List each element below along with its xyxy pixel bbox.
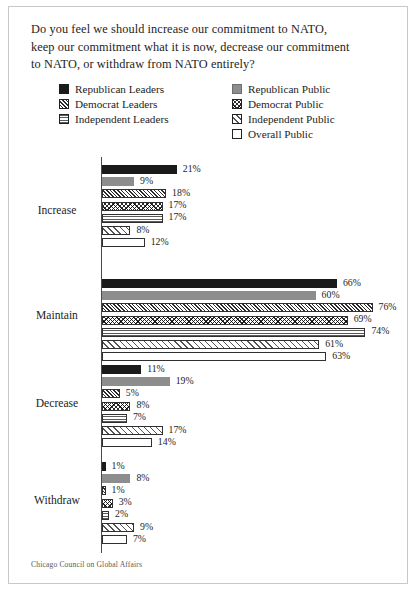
bar-value-label: 76% <box>379 301 397 312</box>
bar-increase-independent-public <box>102 226 130 235</box>
bar-value-label: 17% <box>169 424 187 435</box>
bar-row: 61% <box>102 340 379 349</box>
bar-value-label: 5% <box>126 387 139 398</box>
bar-row: 8% <box>102 402 190 411</box>
bar-row: 8% <box>102 474 190 483</box>
bar-row: 14% <box>102 438 212 447</box>
bar-value-label: 60% <box>322 289 340 300</box>
bar-value-label: 61% <box>325 338 343 349</box>
chart-figure: Do you feel we should increase our commi… <box>8 6 408 584</box>
bar-value-label: 21% <box>183 163 201 174</box>
bar-decrease-republican-public <box>102 377 170 386</box>
bar-increase-republican-leaders <box>102 165 177 174</box>
bar-row: 17% <box>102 426 223 435</box>
bar-maintain-independent-leaders <box>102 328 365 337</box>
category-label-decrease: Decrease <box>17 397 97 410</box>
bar-row: 66% <box>102 279 397 288</box>
bar-decrease-independent-public <box>102 426 163 435</box>
bar-value-label: 8% <box>136 472 149 483</box>
category-label-withdraw: Withdraw <box>17 494 97 507</box>
bar-increase-democrat-leaders <box>102 189 166 198</box>
bar-value-label: 9% <box>140 175 153 186</box>
bar-value-label: 17% <box>169 211 187 222</box>
bar-value-label: 18% <box>172 187 190 198</box>
bar-row: 8% <box>102 226 190 235</box>
bar-value-label: 19% <box>176 375 194 386</box>
bar-row: 1% <box>102 486 166 495</box>
bar-row: 17% <box>102 202 223 211</box>
bar-value-label: 2% <box>115 508 128 519</box>
bar-value-label: 17% <box>169 199 187 210</box>
bar-increase-independent-leaders <box>102 214 163 223</box>
bar-value-label: 7% <box>133 411 146 422</box>
bar-withdraw-independent-public <box>102 523 134 532</box>
bar-row: 76% <box>102 303 417 312</box>
bar-row: 1% <box>102 462 166 471</box>
bar-row: 17% <box>102 214 223 223</box>
bar-value-label: 74% <box>371 325 389 336</box>
bar-withdraw-independent-leaders <box>102 511 109 520</box>
bar-value-label: 8% <box>136 399 149 410</box>
bar-increase-republican-public <box>102 177 134 186</box>
bar-decrease-republican-leaders <box>102 365 141 374</box>
bar-value-label: 66% <box>343 277 361 288</box>
bar-value-label: 14% <box>158 436 176 447</box>
category-label-increase: Increase <box>17 204 97 217</box>
bar-value-label: 12% <box>151 236 169 247</box>
bar-row: 19% <box>102 377 230 386</box>
bar-decrease-democrat-public <box>102 402 130 411</box>
bar-value-label: 11% <box>147 363 165 374</box>
bar-maintain-republican-public <box>102 291 316 300</box>
bar-row: 69% <box>102 316 408 325</box>
bar-maintain-republican-leaders <box>102 279 337 288</box>
bar-value-label: 1% <box>112 460 125 471</box>
bar-decrease-independent-leaders <box>102 414 127 423</box>
bar-withdraw-democrat-leaders <box>102 486 106 495</box>
bar-maintain-overall-public <box>102 352 326 361</box>
bar-maintain-independent-public <box>102 340 319 349</box>
bar-row: 74% <box>102 328 417 337</box>
bar-row: 21% <box>102 165 237 174</box>
bar-increase-overall-public <box>102 238 145 247</box>
bar-maintain-democrat-public <box>102 316 348 325</box>
bar-value-label: 63% <box>332 350 350 361</box>
bar-withdraw-overall-public <box>102 535 127 544</box>
source-note: Chicago Council on Global Affairs <box>31 560 142 569</box>
bar-maintain-democrat-leaders <box>102 303 373 312</box>
bar-row: 7% <box>102 535 187 544</box>
bar-row: 2% <box>102 511 169 520</box>
bar-withdraw-republican-leaders <box>102 462 106 471</box>
bar-row: 11% <box>102 365 201 374</box>
bar-increase-democrat-public <box>102 202 163 211</box>
bar-value-label: 9% <box>140 521 153 532</box>
category-label-maintain: Maintain <box>17 309 97 322</box>
bar-row: 12% <box>102 238 205 247</box>
bar-decrease-overall-public <box>102 438 152 447</box>
bar-row: 9% <box>102 523 194 532</box>
bar-value-label: 69% <box>354 313 372 324</box>
bar-value-label: 7% <box>133 533 146 544</box>
bar-row: 5% <box>102 389 180 398</box>
bar-withdraw-democrat-public <box>102 499 113 508</box>
bar-row: 9% <box>102 177 194 186</box>
bar-row: 3% <box>102 499 173 508</box>
bar-value-label: 1% <box>112 484 125 495</box>
bar-row: 60% <box>102 291 376 300</box>
bar-row: 7% <box>102 414 187 423</box>
bar-row: 63% <box>102 352 386 361</box>
bar-row: 18% <box>102 189 226 198</box>
chart-plot-area: 21%9%18%17%17%8%12%66%60%76%69%74%61%63%… <box>9 7 409 585</box>
bar-decrease-democrat-leaders <box>102 389 120 398</box>
bar-withdraw-republican-public <box>102 474 130 483</box>
bar-value-label: 3% <box>119 496 132 507</box>
bar-value-label: 8% <box>136 224 149 235</box>
